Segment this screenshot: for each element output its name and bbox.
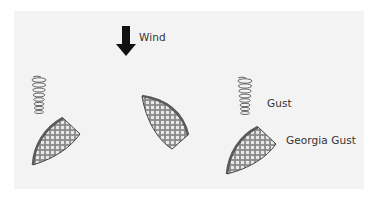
middle-sail-shape: [142, 96, 188, 149]
gust-label: Gust: [267, 97, 292, 109]
right-spring-icon: [238, 77, 252, 115]
wind-label: Wind: [139, 31, 166, 43]
diagram-canvas: [0, 0, 381, 200]
left-spring-icon: [32, 76, 46, 114]
left-sail-shape: [33, 118, 80, 165]
right-sail-shape: [227, 127, 276, 174]
georgia-gust-label: Georgia Gust: [286, 134, 356, 146]
wind-arrow-icon: [116, 26, 136, 56]
